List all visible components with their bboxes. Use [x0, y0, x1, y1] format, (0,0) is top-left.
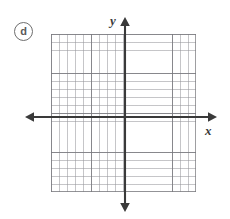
x-axis-label: x: [205, 124, 212, 137]
x-axis-left-arrowhead: [25, 112, 34, 122]
coordinate-grid: [51, 34, 196, 192]
y-axis-label: y: [110, 14, 116, 27]
coordinate-plane-figure: d y x: [0, 0, 230, 219]
part-label-d: d: [14, 22, 33, 41]
x-axis-right-arrowhead: [208, 112, 217, 122]
y-axis-up-arrowhead: [120, 17, 130, 26]
y-axis-down-arrowhead: [120, 203, 130, 212]
